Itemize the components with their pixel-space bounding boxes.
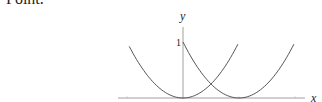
y-tick-label-1: 1 bbox=[176, 37, 181, 48]
curve-x-minus-1-squared bbox=[183, 42, 294, 98]
curve-x-squared bbox=[129, 44, 238, 98]
parabola-plot: y 1 x bbox=[0, 0, 322, 102]
x-axis-label: x bbox=[310, 91, 317, 102]
y-axis-label: y bbox=[179, 9, 186, 23]
